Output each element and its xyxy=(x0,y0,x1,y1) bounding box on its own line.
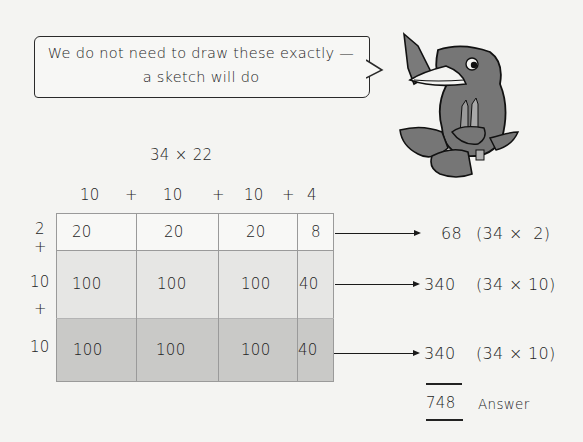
row-label-plus: + xyxy=(34,300,47,318)
grid-cell: 100 xyxy=(73,318,103,382)
speech-bubble-tail xyxy=(366,58,384,80)
grid-cell: 100 xyxy=(72,250,102,318)
grid-cell: 100 xyxy=(157,250,187,318)
partial-product-value: 68 xyxy=(441,224,462,243)
row-label: 10 xyxy=(30,273,50,291)
partial-product-expression: (34 × 10) xyxy=(476,344,555,363)
column-header-part: 10 xyxy=(244,186,264,204)
column-header-part: 10 xyxy=(80,186,100,204)
answer-label: Answer xyxy=(478,396,530,412)
partial-product-expression: (34 × 2) xyxy=(476,224,550,243)
partial-product-value: 340 xyxy=(424,275,455,294)
partial-product-value: 340 xyxy=(424,344,455,363)
grid-cell: 40 xyxy=(298,318,318,382)
grid-divider xyxy=(218,213,219,382)
answer-value: 748 xyxy=(426,394,456,412)
row-label: 10 xyxy=(30,338,50,356)
grid-cell: 20 xyxy=(246,213,266,250)
row-label: 2 xyxy=(35,220,45,238)
grid-cell: 100 xyxy=(156,318,186,382)
column-header-plus: + xyxy=(125,186,138,204)
column-header-plus: + xyxy=(282,186,295,204)
row-label-plus: + xyxy=(34,238,47,256)
area-model-grid: 20 20 20 8 100 100 100 40 100 100 100 40 xyxy=(56,213,334,382)
speech-bubble-line-1: We do not need to draw these exactly — xyxy=(34,45,368,61)
column-header-part: 10 xyxy=(163,186,183,204)
arrow-right-icon xyxy=(334,353,418,354)
crow-holding-pencils-icon xyxy=(392,28,532,178)
partial-product-expression: (34 × 10) xyxy=(476,275,555,294)
grid-cell: 40 xyxy=(299,250,319,318)
column-header-plus: + xyxy=(212,186,225,204)
speech-bubble-line-2: a sketch will do xyxy=(34,69,368,85)
grid-cell: 8 xyxy=(311,213,321,250)
grid-cell: 100 xyxy=(241,250,271,318)
grid-cell: 20 xyxy=(72,213,92,250)
arrow-right-icon xyxy=(335,284,418,285)
problem-title: 34 × 22 xyxy=(150,146,212,164)
grid-cell: 100 xyxy=(241,318,271,382)
arrow-right-icon xyxy=(335,233,419,234)
sum-rule-bottom xyxy=(426,419,463,421)
sum-rule-top xyxy=(426,383,462,385)
grid-divider xyxy=(136,213,137,382)
column-header-part: 4 xyxy=(307,186,317,204)
grid-cell: 20 xyxy=(164,213,184,250)
